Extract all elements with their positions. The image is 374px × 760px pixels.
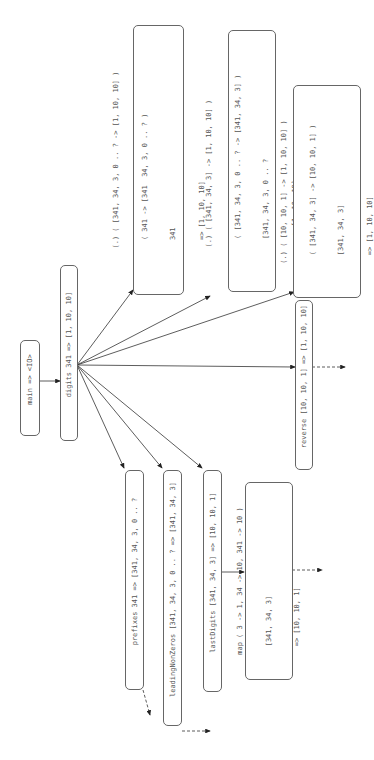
node-map-line: map ( 3 -> 1, 34 -> 10, 341 -> 10 )	[236, 507, 246, 655]
node-main: main => <IO>	[20, 340, 40, 436]
node-map: map ( 3 -> 1, 34 -> 10, 341 -> 10 ) [341…	[245, 482, 293, 680]
node-last-digits-text: lastDigits [341, 34, 3] => [10, 10, 1]	[208, 492, 216, 652]
node-prefixes-text: prefixes 341 => [341, 34, 3, 0 .. ?	[130, 498, 138, 646]
node-reverse: reverse [10, 10, 1] => [1, 10, 10]	[295, 300, 313, 470]
node-digits: digits 341 => [1, 10, 10]	[60, 265, 78, 441]
node-reverse-text: reverse [10, 10, 1] => [1, 10, 10]	[299, 305, 307, 448]
node-compose3-line: ( [341, 34, 3] -> [10, 10, 1] )	[308, 120, 318, 263]
node-leading-non-zeros: leadingNonZeros [341, 34, 3, 0 .. ? => […	[163, 470, 182, 726]
node-compose1-line: ( 341 -> [341 34, 3, 0 .. ? )	[140, 71, 150, 248]
node-leading-non-zeros-text: leadingNonZeros [341, 34, 3, 0 .. ? => […	[168, 482, 176, 697]
node-compose3: (.) ( [10, 10, 1] -> [1, 10, 10] ) ( [34…	[293, 85, 361, 298]
node-compose1-line: (.) ( [341, 34, 3, 0 .. ? -> [1, 10, 10]…	[111, 71, 121, 248]
node-digits-text: digits 341 => [1, 10, 10]	[64, 292, 72, 397]
node-compose2-line: ( [341, 34, 3, 0 .. ? -> [341, 34, 3] )	[233, 75, 243, 248]
node-compose1: (.) ( [341, 34, 3, 0 .. ? -> [1, 10, 10]…	[133, 25, 184, 295]
node-compose1-line: 341	[168, 71, 178, 248]
node-compose3-line: (.) ( [10, 10, 1] -> [1, 10, 10] )	[280, 120, 290, 263]
node-main-text: main => <IO>	[25, 354, 33, 405]
node-compose2-line: (.) ( [341, 34, 3] -> [1, 10, 10] )	[205, 75, 215, 248]
node-compose3-line: [341, 34, 3]	[337, 120, 347, 263]
node-prefixes: prefixes 341 => [341, 34, 3, 0 .. ?	[125, 470, 144, 690]
node-map-line: [341, 34, 3]	[264, 507, 274, 655]
node-map-line: => [10, 10, 1]	[293, 507, 303, 655]
node-compose3-line: => [1, 10, 10]	[365, 120, 374, 263]
